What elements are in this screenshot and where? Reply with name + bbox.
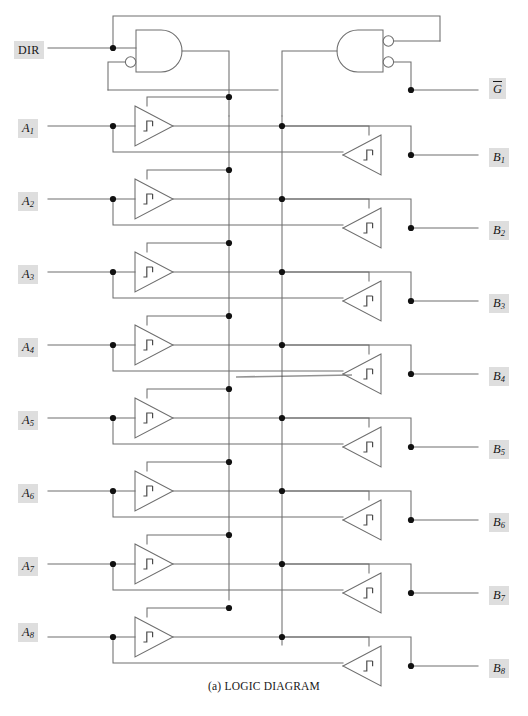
pin-label-b7-index: 7 bbox=[501, 593, 505, 603]
a-to-b-output-wire-2 bbox=[173, 199, 411, 228]
dir-junction-dot bbox=[110, 45, 116, 51]
a-input-junction-dot-8 bbox=[110, 634, 116, 640]
pin-label-dir: DIR bbox=[14, 41, 44, 59]
b-output-junction-dot-3 bbox=[408, 298, 414, 304]
b-enable-wire-5 bbox=[282, 418, 369, 427]
hysteresis-icon-b5 bbox=[363, 442, 372, 452]
b-enable-dot-2 bbox=[279, 196, 285, 202]
hysteresis-icon-a8 bbox=[143, 632, 152, 642]
buffer-a-to-b-5 bbox=[135, 398, 173, 438]
hysteresis-icon-a1 bbox=[143, 121, 152, 131]
buffer-a-to-b-1 bbox=[135, 106, 173, 146]
buffer-b-to-a-1 bbox=[343, 135, 381, 175]
a-enable-dot-2 bbox=[226, 167, 232, 173]
pin-label-a8-index: 8 bbox=[30, 630, 34, 640]
hysteresis-icon-b4 bbox=[363, 369, 372, 379]
pin-label-a7: A7 bbox=[18, 557, 38, 576]
logic-diagram-figure: DIRGA1A2A3A4A5A6A7A8B1B2B3B4B5B6B7B8 (a)… bbox=[0, 0, 528, 716]
a-enable-dot-7 bbox=[226, 532, 232, 538]
logic-diagram-svg bbox=[0, 0, 528, 716]
right-gate-bottom-output-wire bbox=[394, 62, 411, 90]
pin-label-a1-index: 1 bbox=[30, 126, 34, 136]
buffer-b-to-a-6 bbox=[343, 500, 381, 540]
pin-label-b5-index: 5 bbox=[501, 447, 505, 457]
pin-label-b4: B4 bbox=[489, 367, 509, 386]
pin-label-a4: A4 bbox=[18, 338, 38, 357]
hysteresis-icon-a6 bbox=[143, 486, 152, 496]
a-to-b-output-wire-3 bbox=[173, 272, 411, 301]
scan-artifact bbox=[236, 375, 352, 377]
pin-label-b3-index: 3 bbox=[501, 301, 505, 311]
buffer-a-to-b-8 bbox=[135, 617, 173, 657]
b-output-junction-dot-4 bbox=[408, 371, 414, 377]
b-enable-wire-3 bbox=[282, 272, 369, 281]
pin-label-a3-index: 3 bbox=[30, 272, 34, 282]
pin-label-b8: B8 bbox=[489, 659, 509, 678]
left-gate-input-bubble bbox=[125, 57, 135, 67]
a-to-b-output-wire-6 bbox=[173, 491, 411, 520]
a-enable-wire-2 bbox=[147, 170, 229, 179]
right-gate-input-wire bbox=[282, 51, 337, 116]
and-gate-gbar bbox=[337, 30, 383, 72]
pin-label-a7-index: 7 bbox=[30, 564, 34, 574]
a-enable-wire-7 bbox=[147, 535, 229, 544]
pin-label-a6: A6 bbox=[18, 484, 38, 503]
pin-label-a5-index: 5 bbox=[30, 418, 34, 428]
a-input-junction-dot-2 bbox=[110, 196, 116, 202]
buffer-b-to-a-7 bbox=[343, 573, 381, 613]
pin-label-b7: B7 bbox=[489, 586, 509, 605]
a-enable-dot-6 bbox=[226, 459, 232, 465]
hysteresis-icon-b2 bbox=[363, 223, 372, 233]
b-enable-dot-6 bbox=[279, 488, 285, 494]
b-output-junction-dot-8 bbox=[408, 663, 414, 669]
a-enable-dot-3 bbox=[226, 240, 232, 246]
gate-layer bbox=[125, 30, 393, 686]
pin-label-a2-index: 2 bbox=[30, 199, 34, 209]
b-enable-dot-8 bbox=[279, 634, 285, 640]
gbar-junction-dot bbox=[408, 87, 414, 93]
pin-label-b4-index: 4 bbox=[501, 374, 505, 384]
b-output-junction-dot-7 bbox=[408, 590, 414, 596]
pin-label-a2: A2 bbox=[18, 192, 38, 211]
pin-label-gbar: G bbox=[489, 78, 506, 99]
junction-dot-layer bbox=[110, 45, 414, 669]
b-enable-wire-8 bbox=[282, 637, 369, 646]
left-gate-output-wire bbox=[182, 51, 229, 116]
a-enable-wire-8 bbox=[147, 608, 229, 617]
pin-label-a4-index: 4 bbox=[30, 345, 34, 355]
pin-label-b5: B5 bbox=[489, 440, 509, 459]
wire-layer bbox=[48, 16, 478, 666]
hysteresis-icon-a3 bbox=[143, 267, 152, 277]
buffer-b-to-a-3 bbox=[343, 281, 381, 321]
and-gate-dir bbox=[136, 30, 182, 72]
pin-label-b1: B1 bbox=[489, 148, 509, 167]
b-output-junction-dot-1 bbox=[408, 152, 414, 158]
pin-label-b1-index: 1 bbox=[501, 155, 505, 165]
pin-label-b2-index: 2 bbox=[501, 228, 505, 238]
b-enable-dot-5 bbox=[279, 415, 285, 421]
b-enable-dot-7 bbox=[279, 561, 285, 567]
a-input-junction-dot-3 bbox=[110, 269, 116, 275]
pin-label-b2: B2 bbox=[489, 221, 509, 240]
a-enable-dot-8 bbox=[226, 605, 232, 611]
a-input-junction-dot-7 bbox=[110, 561, 116, 567]
b-enable-dot-1 bbox=[279, 123, 285, 129]
buffer-a-to-b-3 bbox=[135, 252, 173, 292]
a-enable-dot-1 bbox=[226, 94, 232, 100]
b-enable-wire-1 bbox=[282, 126, 369, 135]
a-to-b-output-wire-7 bbox=[173, 564, 411, 593]
right-gate-output-bubble-top bbox=[383, 36, 393, 46]
pin-label-b6: B6 bbox=[489, 513, 509, 532]
b-enable-wire-4 bbox=[282, 345, 369, 354]
a-to-b-output-wire-8 bbox=[173, 637, 411, 666]
hysteresis-icon-a4 bbox=[143, 340, 152, 350]
a-to-b-output-wire-5 bbox=[173, 418, 411, 447]
a-enable-dot-4 bbox=[226, 313, 232, 319]
a-enable-wire-1 bbox=[147, 97, 229, 106]
pin-label-a5: A5 bbox=[18, 411, 38, 430]
figure-caption: (a) LOGIC DIAGRAM bbox=[0, 680, 528, 692]
hysteresis-icon-b6 bbox=[363, 515, 372, 525]
a-to-b-output-wire-1 bbox=[173, 126, 411, 155]
pin-label-a6-index: 6 bbox=[30, 491, 34, 501]
pin-label-b8-index: 8 bbox=[501, 666, 505, 676]
